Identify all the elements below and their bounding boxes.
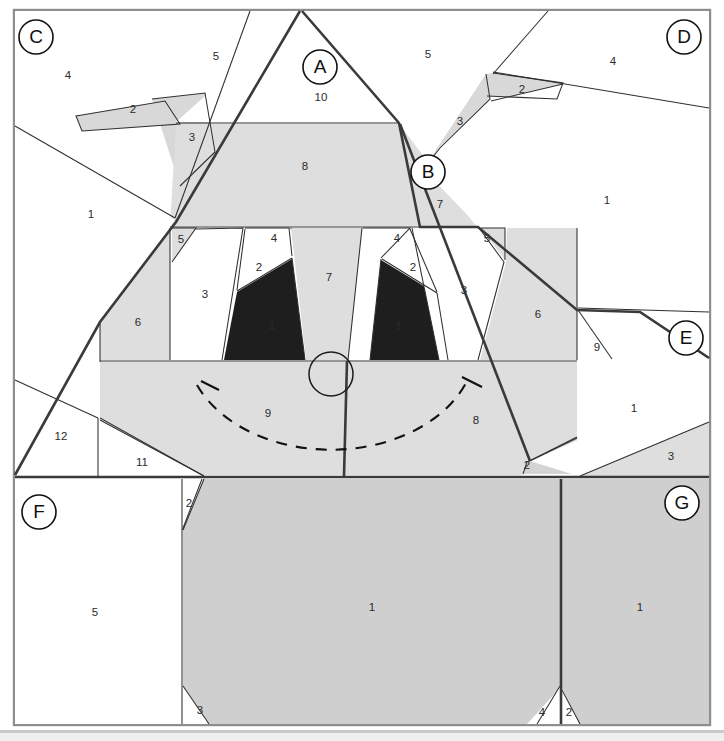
section-badge-e: E — [669, 321, 703, 355]
section-badge-ring — [22, 495, 56, 529]
section-badge-b: B — [411, 155, 445, 189]
section-badge-ring — [411, 155, 445, 189]
piece-fill-a8 — [170, 124, 420, 226]
section-badge-a: A — [303, 50, 337, 84]
section-badge-c: C — [19, 20, 53, 54]
piece-fill-f1 — [183, 479, 560, 724]
section-badge-ring — [665, 486, 699, 520]
piece-fills — [15, 11, 709, 724]
pattern-page: 1085342176974213569824523112115423113523… — [0, 0, 724, 741]
section-badge-ring — [667, 20, 701, 54]
section-badge-ring — [19, 20, 53, 54]
section-badge-ring — [669, 321, 703, 355]
page-footer-strip — [0, 728, 724, 741]
section-badge-f: F — [22, 495, 56, 529]
pattern-diagram: 1085342176974213569824523112115423113523… — [0, 0, 724, 741]
section-badge-ring — [303, 50, 337, 84]
section-badge-d: D — [667, 20, 701, 54]
section-badge-g: G — [665, 486, 699, 520]
